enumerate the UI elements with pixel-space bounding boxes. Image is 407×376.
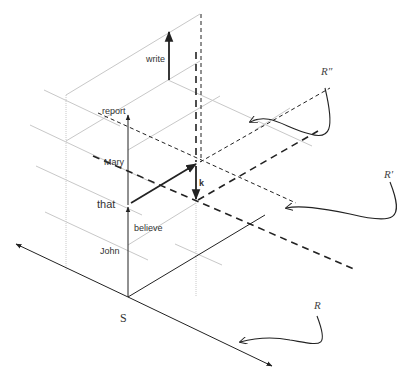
label-that: that [97,198,115,210]
label-write: write [145,54,165,64]
axes [16,115,272,366]
label-r-prime: R′ [383,168,394,180]
r-axis-arrow [128,297,272,366]
plane-r-prime-rise [198,131,318,200]
grid-line [128,96,220,150]
grid-line [30,125,155,184]
label-john: John [100,246,120,256]
grid-line [168,80,312,146]
grid-line [45,212,148,260]
grid-lines [30,14,312,296]
label-believe: believe [134,223,163,233]
grid-line [66,14,200,95]
label-report: report [102,106,126,116]
diagram-svg: write report Mary that believe John k S … [0,0,407,376]
r-prime-pointer [286,182,397,219]
label-r: R [313,299,321,311]
grid-line [36,166,142,215]
r-pointer [240,316,323,344]
label-k: k [199,178,205,188]
label-r-double-prime: R″ [320,65,333,77]
label-origin-s: S [120,311,127,325]
label-mary: Mary [104,157,124,167]
diagram-canvas: write report Mary that believe John k S … [0,0,407,376]
